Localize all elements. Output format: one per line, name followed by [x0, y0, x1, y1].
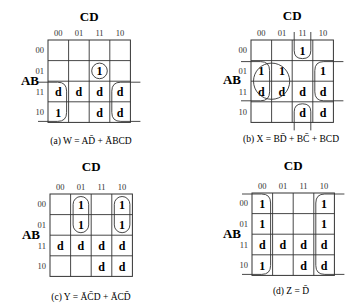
dont-care-cell: d	[259, 238, 266, 252]
column-variable-label: CD	[283, 8, 302, 23]
row-header: 01	[240, 219, 249, 229]
row-header: 00	[36, 45, 45, 55]
row-header: 11	[38, 241, 46, 251]
dont-care-cell: d	[96, 106, 103, 120]
dont-care-cell: d	[76, 85, 83, 99]
kmap-c: CD00011110AB000111101111dddddd(c) Y = ĀC…	[22, 159, 132, 303]
column-header: 01	[278, 28, 287, 38]
dont-care-cell: d	[98, 260, 105, 274]
minterm-cell: 1	[321, 217, 327, 231]
row-header: 01	[36, 66, 45, 76]
minterm-cell: 1	[78, 198, 84, 212]
row-header: 01	[239, 66, 248, 76]
column-variable-label: CD	[80, 9, 99, 24]
dont-care-cell: d	[117, 106, 124, 120]
minterm-cell: 1	[55, 106, 61, 120]
dont-care-cell: d	[300, 238, 307, 252]
column-header: 10	[319, 28, 328, 38]
row-header: 11	[240, 240, 248, 250]
minterm-cell: 1	[259, 217, 265, 231]
column-header: 11	[298, 28, 306, 38]
dont-care-cell: d	[258, 85, 265, 99]
map-caption: (d) Z = D̄	[273, 285, 309, 297]
dont-care-cell: d	[280, 238, 287, 252]
column-header: 00	[56, 182, 65, 192]
row-header: 00	[240, 198, 249, 208]
column-header: 01	[77, 182, 86, 192]
map-caption: (a) W = AD̄ + ĀBCD	[50, 135, 131, 147]
row-header: 11	[239, 87, 247, 97]
row-header: 01	[38, 220, 47, 230]
dont-care-cell: d	[98, 239, 105, 253]
dont-care-cell: d	[320, 106, 327, 120]
minterm-cell: 1	[119, 218, 125, 232]
dont-care-cell: d	[119, 260, 126, 274]
dont-care-cell: d	[117, 85, 124, 99]
minterm-cell: 1	[300, 44, 306, 58]
karnaugh-maps-figure: CD00011110AB000111101dddd1dd(a) W = AD̄ …	[0, 0, 349, 307]
column-header: 01	[75, 28, 84, 38]
column-header: 11	[97, 182, 105, 192]
map-caption: (c) Y = ĀC̄D + ĀCD̄	[51, 291, 131, 303]
column-header: 00	[257, 28, 266, 38]
dont-care-cell: d	[299, 85, 306, 99]
column-header: 10	[116, 28, 125, 38]
dont-care-cell: d	[321, 259, 328, 273]
dont-care-cell: d	[78, 239, 85, 253]
dont-care-cell: d	[299, 106, 306, 120]
dont-care-cell: d	[321, 238, 328, 252]
column-variable-label: CD	[284, 158, 303, 173]
dont-care-cell: d	[55, 85, 62, 99]
column-header: 00	[258, 181, 267, 191]
minterm-cell: 1	[119, 198, 125, 212]
minterm-cell: 1	[320, 64, 326, 78]
row-header: 00	[239, 45, 248, 55]
column-header: 11	[299, 181, 307, 191]
row-header: 10	[239, 107, 248, 117]
column-header: 00	[54, 28, 63, 38]
minterm-cell: 1	[259, 197, 265, 211]
minterm-cell: 1	[78, 218, 84, 232]
dont-care-cell: d	[119, 239, 126, 253]
column-header: 10	[118, 182, 127, 192]
column-header: 01	[279, 181, 288, 191]
dont-care-cell: d	[57, 239, 64, 253]
row-header: 10	[36, 107, 45, 117]
minterm-cell: 1	[321, 197, 327, 211]
row-header: 11	[36, 87, 44, 97]
kmap-d: CD00011110AB000111101111dddd1dd(d) Z = D…	[223, 158, 344, 297]
dont-care-cell: d	[96, 85, 103, 99]
column-variable-label: CD	[82, 159, 101, 174]
row-header: 00	[38, 199, 47, 209]
dont-care-cell: d	[300, 259, 307, 273]
row-header: 10	[38, 261, 47, 271]
dont-care-cell: d	[279, 85, 286, 99]
column-header: 10	[320, 181, 329, 191]
minterm-cell: 1	[259, 259, 265, 273]
column-header: 11	[95, 28, 103, 38]
minterm-cell: 1	[97, 64, 103, 78]
kmap-b: CD00011110AB000111101111dddddd(b) X = BD…	[223, 8, 343, 145]
row-header: 10	[240, 260, 249, 270]
kmap-a: CD00011110AB000111101dddd1dd(a) W = AD̄ …	[21, 9, 140, 147]
map-caption: (b) X = BD̄ + BC̄ + BCD	[243, 133, 339, 145]
dont-care-cell: d	[320, 85, 327, 99]
